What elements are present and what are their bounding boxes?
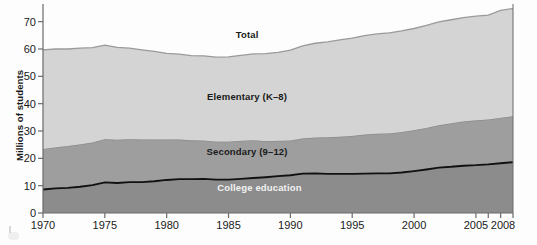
y-tick-label: 10 [16, 180, 36, 192]
x-tick-label: 1985 [216, 219, 240, 231]
y-tick-label: 30 [16, 125, 36, 137]
y-tick-label: 60 [16, 43, 36, 55]
x-tick-label: 1995 [340, 219, 364, 231]
y-tick-label: 0 [16, 207, 36, 219]
y-tick-label: 70 [16, 16, 36, 28]
y-axis-title: Millions of students [14, 41, 25, 191]
y-tick-label: 20 [16, 152, 36, 164]
y-tick-label: 40 [16, 98, 36, 110]
x-tick-label: 1990 [278, 219, 302, 231]
y-tick-label: 50 [16, 70, 36, 82]
series-annotation: College education [217, 182, 301, 193]
x-tick-label: 1980 [154, 219, 178, 231]
series-annotation: Total [236, 29, 259, 40]
series-annotation: Elementary (K–8) [207, 91, 287, 102]
area-chart-plot [0, 0, 537, 245]
chart-container: Millions of students 010203040506070 197… [0, 0, 537, 245]
x-tick-label: 2005 [464, 219, 488, 231]
x-tick-label: 2008 [491, 219, 515, 231]
x-tick-label: 1970 [31, 219, 55, 231]
x-tick-label: 2000 [402, 219, 426, 231]
scan-artifact-tick [9, 226, 11, 233]
x-tick-label: 1975 [93, 219, 117, 231]
series-annotation: Secondary (9–12) [207, 146, 288, 157]
scan-artifact [8, 232, 19, 240]
